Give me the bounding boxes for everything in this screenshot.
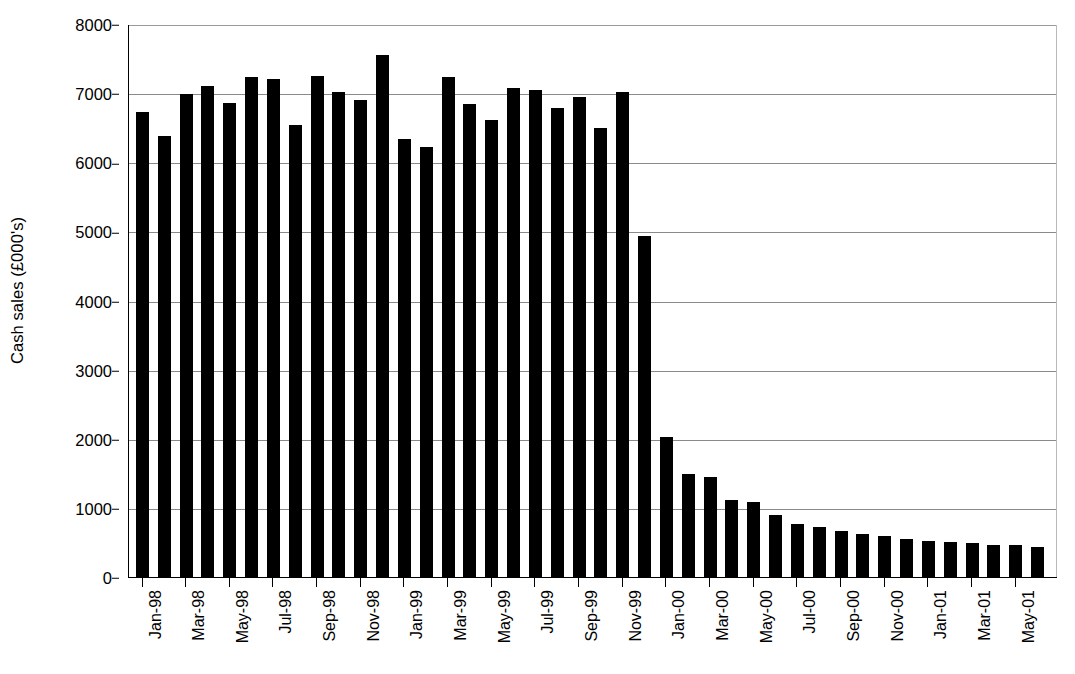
bar — [922, 541, 935, 577]
x-tick-mark — [491, 578, 492, 587]
bar — [835, 531, 848, 577]
bar — [354, 100, 367, 577]
bar — [267, 79, 280, 577]
x-tick-mark — [1015, 578, 1016, 587]
x-tick-mark — [840, 578, 841, 587]
bar — [507, 88, 520, 577]
y-tick-mark — [112, 440, 119, 441]
bar — [1031, 547, 1044, 577]
bar — [769, 515, 782, 577]
y-tick-mark — [112, 94, 119, 95]
x-tick-label: Jan-00 — [671, 590, 687, 639]
x-tick-label: Jul-99 — [540, 590, 556, 634]
x-tick-label: Sep-00 — [846, 590, 862, 642]
x-tick-label: Jan-98 — [148, 590, 164, 639]
bar — [201, 86, 214, 577]
x-tick-label: Mar-01 — [977, 590, 993, 641]
bar — [616, 92, 629, 577]
y-axis-title: Cash sales (£000's) — [0, 0, 36, 580]
y-tick-mark — [112, 232, 119, 233]
y-tick-label: 3000 — [75, 362, 112, 379]
x-tick-mark — [796, 578, 797, 587]
y-tick-label: 7000 — [75, 86, 112, 103]
x-tick-label: Sep-99 — [584, 590, 600, 642]
y-tick-label: 6000 — [75, 155, 112, 172]
y-tick-label: 8000 — [75, 17, 112, 34]
x-tick-label: Jul-00 — [802, 590, 818, 634]
x-tick-label: Nov-99 — [628, 590, 644, 642]
bar — [158, 136, 171, 577]
x-tick-label: Mar-99 — [453, 590, 469, 641]
bar — [442, 77, 455, 577]
bar — [987, 545, 1000, 577]
x-tick-mark — [884, 578, 885, 587]
bar — [463, 104, 476, 578]
x-tick-mark — [709, 578, 710, 587]
x-tick-label: May-01 — [1021, 590, 1037, 643]
x-tick-mark — [927, 578, 928, 587]
x-tick-label: Mar-98 — [191, 590, 207, 641]
x-tick-mark — [753, 578, 754, 587]
bar — [245, 77, 258, 577]
bar — [311, 76, 324, 577]
bar — [485, 120, 498, 577]
y-tick-label: 5000 — [75, 224, 112, 241]
y-tick-mark — [112, 578, 119, 579]
x-tick-mark — [578, 578, 579, 587]
bar — [704, 477, 717, 577]
bar — [420, 147, 433, 577]
y-tick-label: 4000 — [75, 293, 112, 310]
bar — [376, 55, 389, 577]
x-tick-mark — [622, 578, 623, 587]
x-axis-tick-labels: Jan-98Mar-98May-98Jul-98Sep-98Nov-98Jan-… — [128, 578, 1057, 674]
bar — [900, 539, 913, 577]
x-tick-mark — [185, 578, 186, 587]
bar — [529, 90, 542, 577]
y-tick-label: 0 — [103, 570, 112, 587]
x-tick-mark — [360, 578, 361, 587]
x-tick-mark — [403, 578, 404, 587]
bar — [332, 92, 345, 577]
y-tick-mark — [112, 371, 119, 372]
x-tick-label: May-00 — [759, 590, 775, 643]
bar — [1009, 545, 1022, 577]
x-tick-label: Jul-98 — [278, 590, 294, 634]
bar-chart-figure: Cash sales (£000's) 01000200030004000500… — [0, 0, 1075, 674]
x-tick-mark — [971, 578, 972, 587]
bar — [813, 527, 826, 577]
x-tick-mark — [272, 578, 273, 587]
bar — [682, 474, 695, 577]
y-axis-tick-labels: 010002000300040005000600070008000 — [38, 0, 120, 600]
x-tick-label: Nov-98 — [366, 590, 382, 642]
y-tick-mark — [112, 509, 119, 510]
bar — [594, 128, 607, 577]
y-tick-mark — [112, 25, 119, 26]
y-tick-mark — [112, 302, 119, 303]
bar — [180, 94, 193, 577]
x-tick-label: May-99 — [497, 590, 513, 643]
bar — [944, 542, 957, 577]
bar — [660, 437, 673, 577]
x-tick-label: Jan-99 — [409, 590, 425, 639]
y-tick-label: 1000 — [75, 501, 112, 518]
x-tick-mark — [447, 578, 448, 587]
bar-series — [129, 25, 1057, 577]
x-tick-mark — [316, 578, 317, 587]
plot-area — [128, 25, 1057, 578]
caption-strip — [0, 664, 1075, 674]
x-tick-mark — [665, 578, 666, 587]
x-tick-mark — [534, 578, 535, 587]
bar — [638, 236, 651, 577]
bar — [398, 139, 411, 577]
bar — [573, 97, 586, 577]
bar — [878, 536, 891, 577]
x-tick-label: Nov-00 — [890, 590, 906, 642]
bar — [856, 534, 869, 577]
bar — [966, 543, 979, 577]
x-tick-mark — [142, 578, 143, 587]
x-tick-mark — [229, 578, 230, 587]
bar — [791, 524, 804, 577]
bar — [289, 125, 302, 577]
bar — [136, 112, 149, 577]
x-tick-label: Jan-01 — [933, 590, 949, 639]
